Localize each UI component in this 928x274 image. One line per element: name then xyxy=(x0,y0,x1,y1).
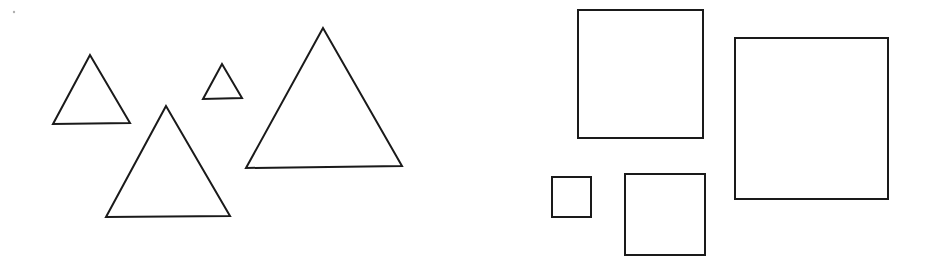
triangles-group xyxy=(53,28,402,217)
square-large-right xyxy=(735,38,888,199)
square-top-middle xyxy=(578,10,703,138)
triangle-tiny xyxy=(203,64,242,99)
square-bottom-middle xyxy=(625,174,705,255)
square-tiny xyxy=(552,177,591,217)
scan-speck xyxy=(13,11,15,13)
triangle-large xyxy=(246,28,402,168)
shapes-diagram xyxy=(0,0,928,274)
triangle-small-left xyxy=(53,55,130,124)
squares-group xyxy=(552,10,888,255)
